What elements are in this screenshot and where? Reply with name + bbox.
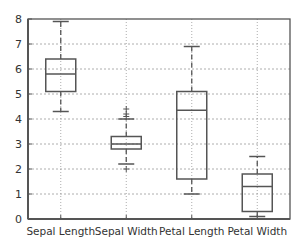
x-tick-label: Sepal Length [26, 225, 95, 237]
y-tick-label: 3 [15, 138, 22, 151]
boxes [46, 22, 273, 217]
y-tick-label: 1 [15, 188, 22, 201]
axes-frame [28, 19, 290, 219]
axes-border [28, 19, 290, 219]
x-tick-label: Sepal Width [95, 225, 158, 237]
box-plot-chart: 012345678 Sepal LengthSepal WidthPetal L… [0, 0, 308, 245]
box-petal-width [242, 157, 272, 217]
x-tick-label: Petal Width [227, 225, 287, 237]
y-tick-label: 2 [15, 163, 22, 176]
y-axis-ticks: 012345678 [15, 13, 32, 226]
y-tick-label: 5 [15, 88, 22, 101]
y-tick-label: 4 [15, 113, 22, 126]
y-tick-label: 8 [15, 13, 22, 26]
box-iqr [46, 59, 76, 92]
grid-lines [28, 19, 290, 219]
plot-area: 012345678 Sepal LengthSepal WidthPetal L… [0, 0, 308, 245]
y-tick-label: 7 [15, 38, 22, 51]
box-iqr [177, 92, 207, 180]
y-tick-label: 0 [15, 213, 22, 226]
y-tick-label: 6 [15, 63, 22, 76]
x-tick-label: Petal Length [159, 225, 224, 237]
